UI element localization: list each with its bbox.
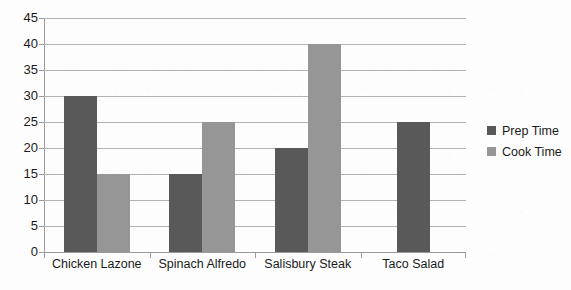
bar [169, 174, 202, 252]
legend-label: Prep Time [502, 124, 559, 138]
bar [202, 122, 235, 252]
bar [275, 148, 308, 252]
y-axis-label-45: 45 [8, 11, 38, 24]
y-axis-label-20: 20 [8, 141, 38, 154]
bar [97, 174, 130, 252]
plot-area [44, 18, 466, 252]
x-axis-label: Salisbury Steak [255, 258, 361, 272]
y-axis-label-35: 35 [8, 63, 38, 76]
y-axis-label-40: 40 [8, 37, 38, 50]
legend-item[interactable]: Prep Time [487, 120, 567, 141]
bar [308, 44, 341, 252]
y-axis-label-25: 25 [8, 115, 38, 128]
bars-layer [44, 18, 466, 252]
x-axis-label: Chicken Lazone [44, 258, 150, 272]
bar [397, 122, 430, 252]
y-axis-label-30: 30 [8, 89, 38, 102]
legend-swatch-icon [487, 147, 496, 156]
legend-label: Cook Time [502, 145, 562, 159]
chart-legend: Prep TimeCook Time [487, 120, 567, 162]
bar-chart-figure: 454035302520151050 Chicken LazoneSpinach… [0, 0, 571, 290]
y-axis-label-15: 15 [8, 167, 38, 180]
bar [64, 96, 97, 252]
legend-swatch-icon [487, 126, 496, 135]
y-axis-label-0: 0 [8, 245, 38, 258]
y-axis-label-5: 5 [8, 219, 38, 232]
y-axis-label-10: 10 [8, 193, 38, 206]
x-axis-label: Spinach Alfredo [150, 258, 256, 272]
y-axis-tick-labels: 454035302520151050 [0, 18, 38, 252]
legend-item[interactable]: Cook Time [487, 141, 567, 162]
x-axis-label: Taco Salad [361, 258, 467, 272]
x-axis-category-labels: Chicken LazoneSpinach AlfredoSalisbury S… [44, 258, 466, 280]
